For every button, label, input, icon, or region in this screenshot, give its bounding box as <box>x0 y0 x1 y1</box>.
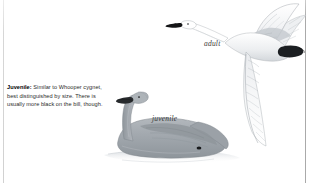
juvenile-bird-label: juvenile <box>152 114 177 123</box>
juvenile-description-caption: Juvenile: Similar to Whooper cygnet, bes… <box>7 83 103 109</box>
juvenile-swan-figure <box>104 92 240 163</box>
adult-swan-figure <box>166 4 307 146</box>
adult-bird-label: adult <box>204 39 220 48</box>
left-column-rule <box>3 0 4 183</box>
caption-lead: Juvenile: <box>7 84 32 90</box>
field-guide-page: Juvenile: Similar to Whooper cygnet, bes… <box>0 0 320 183</box>
right-column-rule <box>305 0 306 183</box>
